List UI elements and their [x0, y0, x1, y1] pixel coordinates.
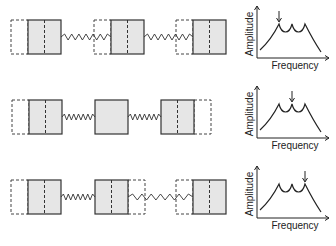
ghost-mass-outline: [11, 20, 28, 54]
ghost-mass-outline: [128, 180, 145, 214]
y-axis-label: Amplitude: [244, 91, 255, 136]
spring: [62, 114, 95, 120]
y-axis: [255, 166, 260, 218]
spring: [61, 34, 111, 40]
ghost-mass-outline: [11, 180, 28, 214]
spectrum-curve: [260, 184, 321, 212]
x-axis-label: Frequency: [271, 60, 318, 71]
coupled-oscillator-diagram: AmplitudeFrequencyAmplitudeFrequencyAmpl…: [0, 0, 336, 246]
peak-arrow-icon: [303, 171, 308, 182]
y-axis-label: Amplitude: [244, 171, 255, 216]
y-axis: [255, 6, 260, 58]
spring: [128, 114, 161, 120]
peak-arrow-icon: [290, 91, 295, 102]
x-axis-label: Frequency: [271, 220, 318, 231]
spring: [128, 194, 193, 200]
mass-block: [95, 100, 128, 134]
spring: [144, 34, 193, 40]
mode-row-2: [12, 100, 211, 134]
mode-row-1: [11, 20, 226, 54]
spectrum-graph-1: AmplitudeFrequency: [244, 6, 329, 71]
y-axis: [255, 86, 260, 138]
x-axis-label: Frequency: [271, 140, 318, 151]
y-axis-label: Amplitude: [244, 11, 255, 56]
spectrum-graph-2: AmplitudeFrequency: [244, 86, 329, 151]
spectrum-curve: [260, 104, 321, 132]
spectrum-graph-3: AmplitudeFrequency: [244, 166, 329, 231]
peak-arrow-icon: [277, 11, 282, 22]
ghost-mass-outline: [12, 100, 29, 134]
spring: [61, 194, 95, 200]
ghost-mass-outline: [194, 100, 211, 134]
ghost-mass-outline: [176, 180, 193, 214]
spectrum-curve: [260, 24, 321, 52]
mode-row-3: [11, 180, 226, 214]
